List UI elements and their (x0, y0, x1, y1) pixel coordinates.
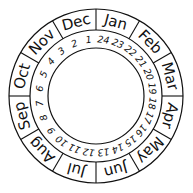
hour-number-8: 8 (37, 113, 49, 123)
hour-number-17: 17 (141, 110, 156, 125)
hour-number-3: 3 (56, 45, 67, 57)
hour-number-15: 15 (123, 133, 139, 149)
month-label-nov: Nov (25, 25, 59, 59)
month-label-jul: Jul (65, 159, 88, 181)
hour-number-12: 12 (82, 146, 95, 158)
hour-number-20: 20 (141, 66, 156, 81)
calendar-dial: JanFebMarAprMayJunJulAugSepOctNovDec 242… (0, 0, 193, 193)
hour-number-2: 2 (69, 37, 79, 49)
month-label-feb: Feb (134, 26, 166, 58)
hour-number-9: 9 (45, 125, 57, 136)
hour-number-5: 5 (37, 69, 49, 79)
hour-number-19: 19 (146, 82, 158, 95)
hour-number-21: 21 (133, 53, 149, 69)
hour-number-14: 14 (110, 141, 125, 156)
month-label-may: May (133, 133, 168, 168)
hour-number-10: 10 (53, 133, 69, 149)
hour-number-4: 4 (45, 56, 57, 67)
number-labels: 242322212019181716151413121110987654321 (34, 33, 159, 159)
hour-number-23: 23 (110, 36, 125, 51)
hour-number-7: 7 (34, 100, 46, 107)
hour-number-1: 1 (85, 34, 92, 46)
hour-number-24: 24 (97, 33, 110, 45)
hour-number-6: 6 (34, 85, 46, 92)
hour-number-18: 18 (146, 97, 158, 110)
month-label-aug: Aug (25, 133, 58, 166)
inner-ring (48, 48, 144, 144)
hour-number-11: 11 (66, 141, 81, 156)
hour-number-13: 13 (97, 146, 110, 158)
middle-ring (30, 30, 162, 162)
month-labels: JanFebMarAprMayJunJulAugSepOctNovDec (10, 10, 183, 182)
